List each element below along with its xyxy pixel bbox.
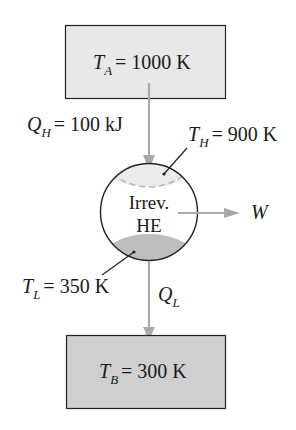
heat-engine-diagram: TA= 1000 K QH= 100 kJ Irrev. HE TH= 900 … bbox=[0, 0, 296, 430]
engine-label-line1: Irrev. bbox=[129, 192, 169, 213]
work-arrowhead bbox=[224, 208, 240, 218]
engine-label-line2: HE bbox=[136, 215, 161, 236]
hot-side-pointer-dot bbox=[162, 172, 165, 175]
cold-side-pointer-dot bbox=[132, 250, 135, 253]
heat-in-label: QH= 100 kJ bbox=[27, 113, 123, 140]
heat-out-label: QL bbox=[158, 283, 180, 310]
cold-side-temp-label: TL= 350 K bbox=[22, 275, 110, 302]
cold-side-pointer bbox=[102, 252, 134, 275]
hot-side-pointer bbox=[164, 148, 187, 174]
work-label: W bbox=[251, 201, 270, 223]
hot-side-temp-label: TH= 900 K bbox=[188, 123, 278, 150]
